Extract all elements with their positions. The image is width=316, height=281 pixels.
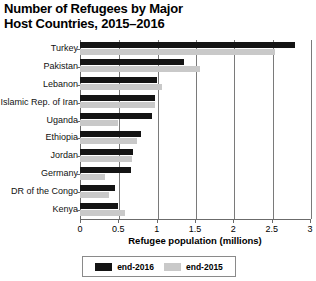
bar-end-2015 <box>80 120 118 126</box>
y-axis-category-label: Germany <box>0 168 78 178</box>
bar-group <box>80 112 310 130</box>
legend-label-end-2015: end-2015 <box>186 262 223 272</box>
bar-end-2016 <box>80 203 118 209</box>
x-axis-tick-label: 0.5 <box>103 224 133 234</box>
bar-end-2015 <box>80 49 275 55</box>
bar-end-2015 <box>80 66 200 72</box>
bar-group <box>80 201 310 219</box>
chart-legend: end-2016 end-2015 <box>82 256 236 277</box>
bar-group <box>80 76 310 94</box>
y-axis-category-label: Ethiopia <box>0 132 78 142</box>
bar-end-2016 <box>80 77 157 83</box>
legend-swatch-end-2016 <box>95 263 112 271</box>
x-axis-tick <box>310 219 311 223</box>
bar-end-2015 <box>80 138 137 144</box>
bar-group <box>80 183 310 201</box>
gridline <box>311 40 312 219</box>
bar-end-2016 <box>80 95 155 101</box>
x-axis-tick <box>195 219 196 223</box>
legend-label-end-2016: end-2016 <box>117 262 154 272</box>
bar-group <box>80 58 310 76</box>
bar-end-2015 <box>80 156 132 162</box>
y-axis-category-label: Pakistan <box>0 61 78 71</box>
bar-end-2016 <box>80 131 141 137</box>
y-axis-category-label: Islamic Rep. of Iran <box>0 97 78 107</box>
x-axis-tick <box>233 219 234 223</box>
y-axis-category-label: Uganda <box>0 115 78 125</box>
legend-swatch-end-2015 <box>164 263 181 271</box>
x-axis-tick-label: 1.5 <box>180 224 210 234</box>
y-axis-category-label: Jordan <box>0 150 78 160</box>
chart-title-line1: Number of Refugees by Major <box>4 1 183 16</box>
x-axis-tick-label: 1 <box>142 224 172 234</box>
x-axis-tick <box>118 219 119 223</box>
bar-end-2015 <box>80 102 155 108</box>
x-axis-tick-label: 0 <box>65 224 95 234</box>
x-axis-tick-label: 2 <box>218 224 248 234</box>
chart-title-line2: Host Countries, 2015–2016 <box>4 16 304 31</box>
x-axis-tick <box>80 219 81 223</box>
chart-container: Number of Refugees by Major Host Countri… <box>0 0 316 281</box>
bar-group <box>80 165 310 183</box>
bar-end-2015 <box>80 210 125 216</box>
bar-end-2015 <box>80 84 162 90</box>
bar-group <box>80 130 310 148</box>
bar-end-2016 <box>80 149 133 155</box>
x-axis-title: Refugee population (millions) <box>80 235 310 246</box>
legend-item-end-2015: end-2015 <box>164 262 223 272</box>
y-axis-category-label: Lebanon <box>0 79 78 89</box>
bar-end-2016 <box>80 185 115 191</box>
bar-end-2016 <box>80 42 295 48</box>
y-axis-category-label: Turkey <box>0 43 78 53</box>
y-axis-category-label: DR of the Congo <box>0 186 78 196</box>
bar-end-2015 <box>80 192 109 198</box>
bar-group <box>80 147 310 165</box>
x-axis-tick <box>272 219 273 223</box>
bar-end-2016 <box>80 59 184 65</box>
bar-group <box>80 40 310 58</box>
y-axis-category-label: Kenya <box>0 204 78 214</box>
x-axis-tick-label: 2.5 <box>257 224 287 234</box>
bar-group <box>80 94 310 112</box>
bar-end-2016 <box>80 113 152 119</box>
bar-end-2015 <box>80 174 105 180</box>
bar-end-2016 <box>80 167 131 173</box>
x-axis-tick <box>157 219 158 223</box>
x-axis-tick-label: 3 <box>295 224 316 234</box>
chart-title: Number of Refugees by Major Host Countri… <box>4 1 304 31</box>
legend-item-end-2016: end-2016 <box>95 262 154 272</box>
